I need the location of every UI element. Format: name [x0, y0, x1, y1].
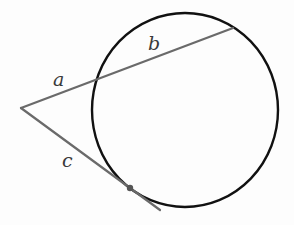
label-b: b: [148, 32, 160, 54]
label-a: a: [53, 68, 64, 90]
tangent-line: [21, 108, 160, 210]
secant-tangent-diagram: a b c: [0, 0, 294, 225]
diagram-canvas: a b c: [0, 0, 294, 225]
circle: [92, 13, 278, 207]
tangent-point: [127, 185, 133, 191]
label-c: c: [62, 149, 73, 171]
